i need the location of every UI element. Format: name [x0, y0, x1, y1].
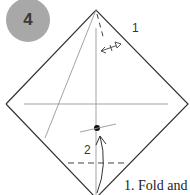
diagonal-crease	[45, 10, 96, 138]
fold-label-2: 2	[84, 143, 91, 157]
fold-arrow-icon-1	[101, 42, 121, 53]
fold-arrow-icon-2	[96, 136, 106, 193]
instruction-caption: 1. Fold and	[124, 178, 187, 194]
fold-label-1: 1	[132, 21, 139, 35]
origami-diagram: 1 2	[0, 0, 190, 195]
paper-outline	[6, 10, 188, 195]
